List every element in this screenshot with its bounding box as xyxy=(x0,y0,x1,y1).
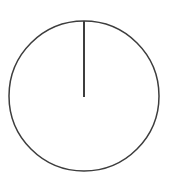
pie-chart-canvas xyxy=(0,0,170,190)
pie-chart-figure xyxy=(0,0,170,190)
